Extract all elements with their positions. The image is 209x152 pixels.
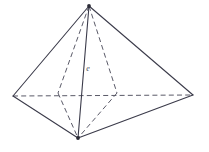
pyramid-wireframe-diagram: e — [0, 0, 209, 152]
geometry-figure-container: e — [0, 0, 209, 152]
visible-edge-group — [13, 6, 193, 138]
hidden-edge-apex-back-left — [58, 6, 89, 93]
edge-label-e: e — [86, 64, 90, 73]
hidden-edge-left-right-diagonal — [13, 95, 193, 96]
vertex-apex — [87, 4, 91, 8]
edge-apex-right — [89, 6, 193, 95]
label-group: e — [86, 64, 90, 73]
edge-right-front-bottom — [78, 95, 193, 138]
edge-apex-left — [13, 6, 89, 96]
hidden-edge-apex-back-right — [89, 6, 117, 93]
vertex-front-bottom — [76, 136, 80, 140]
